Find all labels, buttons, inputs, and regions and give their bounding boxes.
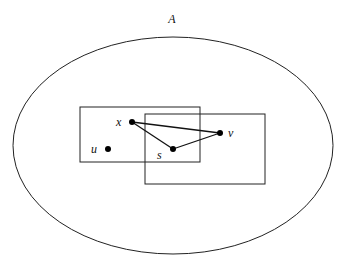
set-diagram: A xusv bbox=[0, 0, 345, 265]
point-x bbox=[129, 119, 135, 125]
set-a-ellipse bbox=[13, 37, 333, 254]
point-u bbox=[105, 146, 111, 152]
point-v bbox=[217, 130, 223, 136]
point-label-s: s bbox=[157, 148, 162, 162]
edge-s-v bbox=[173, 133, 220, 149]
point-label-x: x bbox=[115, 115, 122, 129]
point-s bbox=[170, 146, 176, 152]
rect-right bbox=[145, 114, 265, 184]
point-label-v: v bbox=[228, 126, 234, 140]
set-label-a: A bbox=[167, 12, 176, 26]
rect-left bbox=[80, 107, 200, 162]
point-label-u: u bbox=[91, 142, 97, 156]
points-group: xusv bbox=[91, 115, 234, 162]
